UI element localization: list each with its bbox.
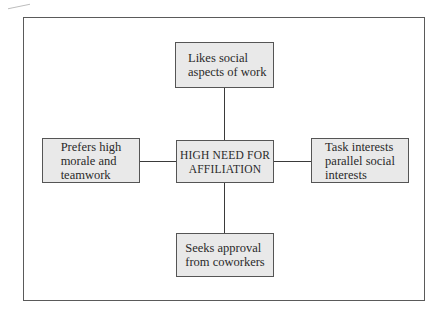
connector-center-to-left	[140, 161, 176, 162]
node-prefers-high-morale: Prefers high morale and teamwork	[42, 138, 140, 183]
page-corner-mark	[8, 0, 30, 9]
connector-center-to-right	[274, 161, 311, 162]
node-label: HIGH NEED FOR AFFILIATION	[180, 148, 270, 176]
node-high-need-for-affiliation: HIGH NEED FOR AFFILIATION	[176, 140, 274, 183]
node-label: Task interests parallel social interests	[325, 140, 395, 182]
node-likes-social-aspects: Likes social aspects of work	[175, 42, 274, 88]
node-label: Prefers high morale and teamwork	[61, 140, 122, 182]
connector-center-to-bottom	[224, 183, 225, 233]
node-seeks-approval: Seeks approval from coworkers	[176, 233, 274, 277]
node-label: Seeks approval from coworkers	[185, 241, 265, 269]
node-label: Likes social aspects of work	[188, 51, 266, 79]
connector-center-to-top	[224, 88, 225, 140]
node-task-interests-parallel: Task interests parallel social interests	[311, 138, 409, 183]
